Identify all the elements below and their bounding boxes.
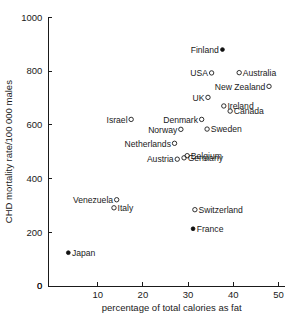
data-point-label: Germany [188,153,224,163]
y-tick-label: 400 [26,173,42,184]
data-points [66,48,271,255]
x-tick-label: 0 [37,280,42,291]
data-point-label: New Zealand [215,82,266,92]
axes [48,17,285,286]
data-point-marker[interactable] [179,127,183,131]
data-point-marker[interactable] [114,198,118,202]
data-point-label: Italy [118,203,134,213]
data-point-label: Netherlands [125,139,171,149]
x-tick-label: 20 [138,289,149,300]
x-tick-label: 50 [273,289,284,300]
data-point-marker[interactable] [66,251,70,255]
data-point-marker[interactable] [221,48,225,52]
data-point-marker[interactable] [182,156,186,160]
data-point-label: Australia [243,68,277,78]
data-point-label: Switzerland [198,205,243,215]
data-point-label: Japan [72,248,96,258]
data-point-label: Finland [191,45,219,55]
data-point-label: USA [190,68,208,78]
data-point-label: Austria [147,154,174,164]
data-point-marker[interactable] [267,84,271,88]
data-point-marker[interactable] [193,207,197,211]
chart-canvas: 0200400600800100001020304050 FinlandUSAA… [0,0,294,326]
data-point-marker[interactable] [175,157,179,161]
data-point-marker[interactable] [129,117,133,121]
data-point-marker[interactable] [205,127,209,131]
data-point-marker[interactable] [191,227,195,231]
data-point-marker[interactable] [199,117,203,121]
data-point-marker[interactable] [206,95,210,99]
data-point-label: Denmark [163,115,199,125]
scatter-plot-figure: 0200400600800100001020304050 FinlandUSAA… [0,0,294,326]
x-tick-label: 30 [183,289,194,300]
x-axis-title: percentage of total calories as fat [102,302,242,313]
y-tick-label: 600 [26,119,42,130]
data-point-label: Israel [107,115,128,125]
data-point-label: France [197,224,224,234]
data-point-label: Norway [148,125,178,135]
data-point-marker[interactable] [209,71,213,75]
x-tick-label: 10 [92,289,103,300]
x-tick-label: 40 [228,289,239,300]
y-tick-label: 1000 [21,12,42,23]
data-point-label: UK [192,93,204,103]
data-point-marker[interactable] [172,141,176,145]
data-point-marker[interactable] [237,70,241,74]
data-point-label: Canada [234,106,264,116]
y-tick-label: 800 [26,65,42,76]
data-point-marker[interactable] [222,104,226,108]
y-tick-label: 200 [26,227,42,238]
data-point-marker[interactable] [112,206,116,210]
data-point-label: Venezuela [73,195,113,205]
data-point-label: Sweden [211,124,242,134]
y-axis-title: CHD mortality rate/100 000 males [3,80,14,223]
data-point-labels: FinlandUSAAustraliaNew ZealandUKIrelandC… [72,45,277,258]
